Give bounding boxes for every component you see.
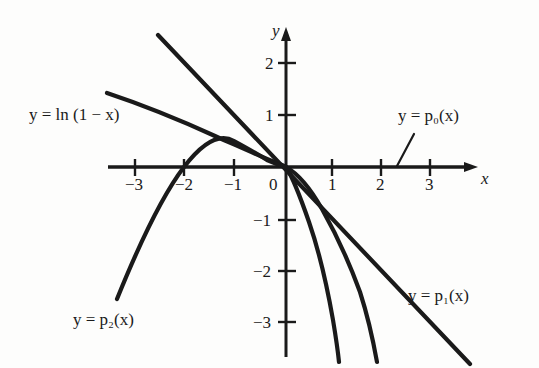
x-tick-label--2: −2: [175, 176, 193, 193]
x-tick-label-3: 3: [425, 176, 434, 193]
y-tick-label--3: −3: [253, 314, 271, 331]
y-axis: [278, 27, 296, 357]
curve-p2-parabola: [117, 138, 377, 362]
curve-label-p1: y = p₁(x): [408, 287, 469, 304]
x-axis-name: x: [481, 170, 489, 187]
x-tick-label--1: −1: [224, 176, 242, 193]
p0-leader-line: [397, 134, 414, 166]
y-tick-label-2: 2: [265, 55, 274, 72]
curve-label-p2: y = p₂(x): [73, 311, 134, 328]
x-tick-label-0: 0: [269, 176, 278, 193]
curve-label-p0: y = p₀(x): [398, 107, 459, 124]
y-tick-label--2: −2: [253, 263, 271, 280]
y-tick-label--1: −1: [253, 212, 271, 229]
curve-ln-1-minus-x: [107, 93, 339, 362]
y-axis-name: y: [272, 22, 280, 39]
curve-label-ln: y = ln (1 − x): [29, 106, 119, 123]
x-tick-label-2: 2: [376, 176, 385, 193]
x-tick-label--3: −3: [125, 176, 143, 193]
figure-container: y x −3 −2 −1 0 1 2 3 2 1 −1 −2 −3 y = ln…: [0, 0, 539, 368]
x-tick-label-1: 1: [328, 176, 337, 193]
y-tick-label-1: 1: [265, 107, 274, 124]
